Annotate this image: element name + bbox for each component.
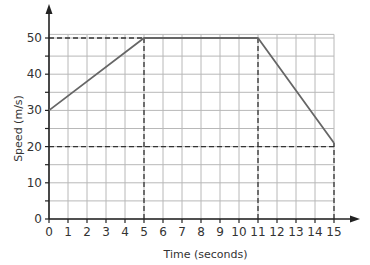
x-tick-label: 1 — [64, 225, 72, 239]
speed-time-chart: 0123456789101112131415 01020304050 Time … — [0, 0, 370, 265]
x-axis-title: Time (seconds) — [163, 248, 248, 261]
x-tick-label: 2 — [83, 225, 91, 239]
x-tick-label: 9 — [216, 225, 224, 239]
x-tick-label: 15 — [326, 225, 341, 239]
x-tick-label: 6 — [159, 225, 167, 239]
x-tick-label: 4 — [121, 225, 129, 239]
y-tick-label: 40 — [27, 67, 42, 81]
x-tick-label: 3 — [102, 225, 110, 239]
x-tick-label: 14 — [307, 225, 322, 239]
x-tick-label: 13 — [288, 225, 303, 239]
x-tick-label: 7 — [178, 225, 186, 239]
x-tick-label: 0 — [45, 225, 53, 239]
y-tick-label: 50 — [27, 31, 42, 45]
x-tick-label: 12 — [269, 225, 284, 239]
x-tick-label: 10 — [231, 225, 246, 239]
y-tick-label: 20 — [27, 140, 42, 154]
x-tick-label: 8 — [197, 225, 205, 239]
y-tick-label: 30 — [27, 103, 42, 117]
x-tick-label: 11 — [250, 225, 265, 239]
y-axis-title: Speed (m/s) — [12, 95, 25, 162]
x-tick-label: 5 — [140, 225, 148, 239]
y-tick-label: 10 — [27, 176, 42, 190]
y-tick-label: 0 — [34, 212, 42, 226]
